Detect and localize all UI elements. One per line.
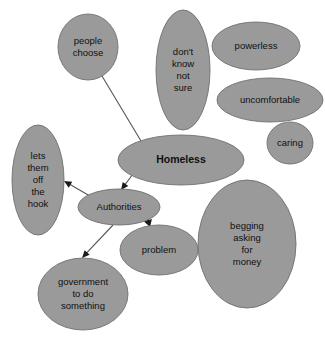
node-label-line: hook <box>28 198 49 209</box>
node-label-line: know <box>172 57 194 68</box>
node-label-line: Homeless <box>156 153 206 165</box>
node-government-to-do-something[interactable]: governmentto dosomething <box>38 258 128 330</box>
node-label: uncomfortable <box>240 94 300 105</box>
arrow-head-icon <box>64 181 72 188</box>
node-label-line: asking <box>233 231 260 242</box>
node-label-line: for <box>241 244 252 255</box>
node-label-line: begging <box>230 219 264 230</box>
node-homeless[interactable]: Homeless <box>118 135 244 185</box>
node-label-line: off <box>33 174 44 185</box>
edge-line <box>85 225 113 255</box>
node-label-line: uncomfortable <box>240 94 300 105</box>
node-label-line: to do <box>72 288 93 299</box>
node-label-line: something <box>61 300 105 311</box>
edge-authorities-to-government-to-do-something <box>82 225 113 258</box>
node-lets-them-off-the-hook[interactable]: letsthemoffthehook <box>12 125 64 235</box>
node-label: problem <box>142 244 176 255</box>
node-label-line: caring <box>277 137 303 148</box>
node-label-line: Authorities <box>97 201 142 212</box>
node-people-choose[interactable]: peoplechoose <box>58 14 118 80</box>
node-problem[interactable]: problem <box>120 225 198 275</box>
node-label-line: the <box>31 186 44 197</box>
node-label-line: them <box>27 161 48 172</box>
node-label: powerless <box>235 40 278 51</box>
node-dont-know-not-sure[interactable]: don'tknownotsure <box>156 10 210 130</box>
node-label: caring <box>277 137 303 148</box>
concept-map-canvas: peoplechoosedon'tknownotsurepowerlessunc… <box>0 0 325 347</box>
node-label: peoplechoose <box>73 34 104 57</box>
node-label-line: sure <box>174 82 192 93</box>
node-label: Authorities <box>97 201 142 212</box>
concept-map-svg: peoplechoosedon'tknownotsurepowerlessunc… <box>0 0 325 347</box>
node-caring[interactable]: caring <box>267 122 313 164</box>
edge-line <box>102 76 144 146</box>
edge-people-choose-to-homeless <box>102 76 144 146</box>
node-begging-asking-for-money[interactable]: beggingaskingformoney <box>198 180 296 308</box>
edge-homeless-to-authorities <box>121 174 133 190</box>
nodes-layer: peoplechoosedon'tknownotsurepowerlessunc… <box>12 10 323 330</box>
node-label-line: problem <box>142 244 176 255</box>
node-label-line: money <box>233 256 262 267</box>
node-label-line: choose <box>73 47 104 58</box>
node-label: Homeless <box>156 153 206 165</box>
node-label-line: not <box>176 70 190 81</box>
node-label-line: government <box>58 275 109 286</box>
node-uncomfortable[interactable]: uncomfortable <box>217 78 323 122</box>
node-authorities[interactable]: Authorities <box>78 189 160 225</box>
node-powerless[interactable]: powerless <box>212 22 300 70</box>
node-label-line: don't <box>173 45 194 56</box>
node-label-line: lets <box>31 149 46 160</box>
node-label-line: powerless <box>235 40 278 51</box>
node-label-line: people <box>74 34 103 45</box>
